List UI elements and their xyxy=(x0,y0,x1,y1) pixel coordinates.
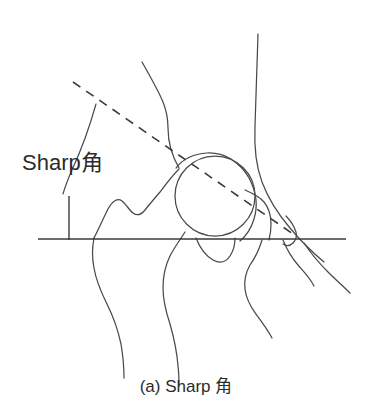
femoral-neck-lower-border xyxy=(163,232,185,386)
angle-arc-marker xyxy=(63,104,96,194)
acetabulum-medial-wall xyxy=(245,190,271,240)
sharp-angle-label: Sharp角 xyxy=(22,152,103,174)
pelvic-brim-curve xyxy=(255,34,324,262)
figure-page: Sharp角 (a) Sharp 角 xyxy=(0,0,372,406)
ilium-outer-border xyxy=(142,62,179,168)
greater-trochanter-lateral-border xyxy=(93,238,125,378)
hip-joint-line-drawing xyxy=(0,0,372,406)
obturator-foramen-curve xyxy=(283,240,314,286)
lesser-trochanter-curve xyxy=(196,238,235,262)
ischium-border xyxy=(245,240,272,338)
figure-caption: (a) Sharp 角 xyxy=(0,376,372,398)
femoral-head-outline xyxy=(175,156,255,236)
femoral-neck-upper-border xyxy=(94,169,179,238)
